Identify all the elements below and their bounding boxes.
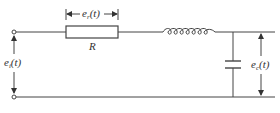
resistor-voltage-label: er(t) [81,8,101,21]
circuit-schematic [0,0,280,113]
input-terminal-top [12,30,16,34]
inductor-symbol [163,28,215,34]
resistor-symbol [66,26,118,38]
resistor-voltage-arg: (t) [90,7,100,19]
circuit-diagram: er(t) R ei(t) ec(t) [0,0,280,113]
input-terminal-bottom [12,95,16,99]
output-voltage-label: ec(t) [250,59,270,72]
output-voltage-arg: (t) [259,58,269,70]
input-voltage-arg: (t) [11,56,21,68]
input-voltage-label: ei(t) [3,57,22,70]
resistor-label: R [88,41,97,52]
